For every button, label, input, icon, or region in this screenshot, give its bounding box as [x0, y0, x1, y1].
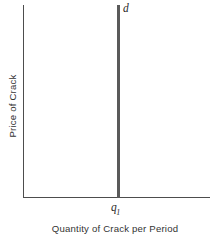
demand-curve-line	[117, 5, 120, 198]
x-axis-tick-label-q1: q1	[0, 201, 220, 217]
y-axis-line	[23, 5, 24, 198]
demand-curve-figure: d q1 Quantity of Crack per Period Price …	[0, 0, 220, 243]
x-axis-title: Quantity of Crack per Period	[0, 223, 220, 234]
y-axis-title: Price of Crack	[7, 75, 18, 138]
tick-label-subscript: 1	[116, 208, 120, 217]
demand-curve-label: d	[123, 3, 129, 15]
